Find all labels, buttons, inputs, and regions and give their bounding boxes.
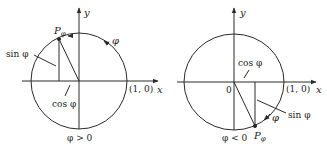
- left-sin-leader: [34, 55, 56, 66]
- right-x-label: x: [316, 84, 322, 95]
- right-y-label: y: [239, 7, 246, 18]
- right-unit-point-label: (1, 0): [286, 84, 310, 94]
- right-cos-label: cos φ: [238, 58, 262, 68]
- left-sin-label: sin φ: [6, 49, 28, 59]
- left-diagram-positive-angle: [22, 8, 158, 129]
- right-radius-line: [234, 82, 255, 126]
- left-x-label: x: [157, 84, 163, 95]
- right-arc-arrow-phi: [264, 114, 270, 120]
- left-cos-label: cos φ: [52, 99, 76, 109]
- left-unit-point-label: (1, 0): [129, 84, 153, 94]
- unit-circle-figure: y x Pφ φ sin φ cos φ (1, 0) φ > 0 y x 0 …: [0, 0, 327, 151]
- left-radius-line: [59, 39, 79, 81]
- left-angle-label: φ: [112, 35, 119, 46]
- left-labels: y x Pφ φ sin φ cos φ (1, 0) φ > 0: [6, 7, 163, 143]
- right-cos-leader: [244, 70, 249, 78]
- right-condition-label: φ < 0: [222, 133, 248, 143]
- right-point-p: [253, 124, 256, 127]
- right-angle-label: φ: [272, 112, 279, 123]
- left-point-label: Pφ: [53, 25, 66, 38]
- left-cos-leader: [65, 85, 70, 96]
- right-sin-label: sin φ: [288, 110, 310, 120]
- left-y-label: y: [83, 7, 90, 18]
- left-condition-label: φ > 0: [67, 133, 93, 143]
- right-origin-label: 0: [226, 85, 232, 95]
- right-point-label: Pφ: [253, 130, 266, 143]
- right-labels: y x 0 Pφ φ sin φ cos φ (1, 0) φ < 0: [222, 7, 322, 143]
